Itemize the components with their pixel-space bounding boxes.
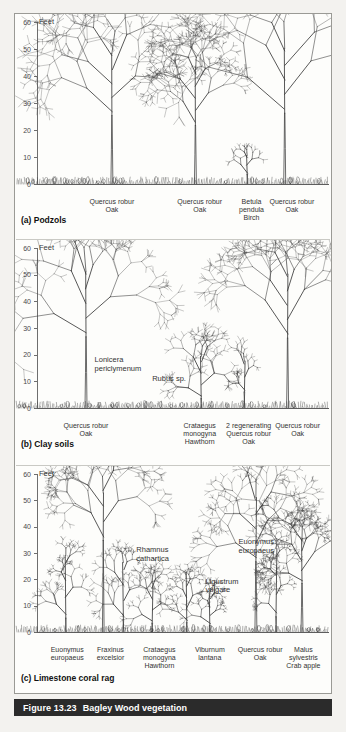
species-annotation: Ligustrum vulgare	[205, 578, 238, 595]
species-label: Quercus robur Oak	[272, 422, 324, 438]
vegetation-profile-drawing	[15, 240, 331, 420]
figure-title: Bagley Wood vegetation	[83, 703, 187, 713]
species-label: Crataegus monogyna Hawthorn	[174, 422, 226, 447]
species-label: Quercus robur Oak	[60, 422, 112, 438]
vegetation-profile-drawing	[15, 14, 331, 196]
panel-limestone-coral-rag: 0102030405060FeetRhamnus catharticaLigus…	[15, 466, 331, 695]
species-label: Viburnum lantana	[184, 646, 236, 662]
species-label-row: Euonymus europaeusFraxinus excelsiorCrat…	[15, 644, 331, 693]
panel-title-podzols: (a) Podzols	[21, 216, 66, 225]
species-label: Quercus robur Oak	[266, 198, 318, 214]
plot-area-limestone: 0102030405060FeetRhamnus catharticaLigus…	[15, 466, 331, 644]
species-annotation: Euonymus europaeus	[239, 538, 274, 555]
ground-line	[37, 408, 329, 409]
figure-frame: 0102030405060FeetQuercus robur OakQuercu…	[14, 13, 332, 694]
vegetation-profile-drawing	[15, 466, 331, 644]
figure-number: Figure 13.23	[23, 703, 77, 713]
plot-area-clay: 0102030405060FeetLonicera periclymenumRu…	[15, 240, 331, 420]
species-label: Crataegus monogyna Hawthorn	[133, 646, 185, 671]
species-annotation: Lonicera periclymenum	[95, 356, 142, 373]
ground-line	[37, 184, 329, 185]
figure-caption-bar: Figure 13.23 Bagley Wood vegetation	[14, 699, 332, 716]
species-label: Quercus robur Oak	[86, 198, 138, 214]
species-label: Quercus robur Oak	[174, 198, 226, 214]
species-label: Fraxinus excelsior	[84, 646, 136, 662]
species-annotation: Rubus sp.	[152, 375, 186, 384]
species-annotation: Rhamnus cathartica	[136, 546, 169, 563]
panel-podzols: 0102030405060FeetQuercus robur OakQuercu…	[15, 14, 331, 239]
plot-area-podzols: 0102030405060Feet	[15, 14, 331, 196]
species-label: Malus sylvestris Crab apple	[277, 646, 329, 671]
panel-clay-soils: 0102030405060FeetLonicera periclymenumRu…	[15, 240, 331, 465]
species-label: 2 regenerating Quercus robur Oak	[223, 422, 275, 447]
ground-line	[37, 632, 329, 633]
panel-title-clay: (b) Clay soils	[21, 440, 74, 449]
panel-title-limestone: (c) Limestone coral rag	[21, 674, 115, 683]
species-label-row: Quercus robur OakCrataegus monogyna Hawt…	[15, 420, 331, 463]
species-label-row: Quercus robur OakQuercus robur OakBetula…	[15, 196, 331, 237]
